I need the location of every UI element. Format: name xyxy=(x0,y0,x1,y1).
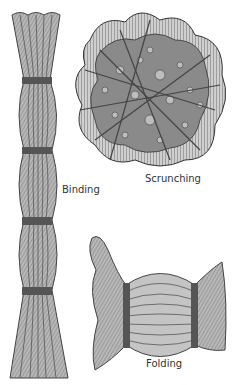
folding-label: Folding xyxy=(146,358,182,369)
binding-band xyxy=(22,147,52,154)
scrunching-label: Scrunching xyxy=(145,173,201,184)
binding-band xyxy=(22,217,52,225)
folding-bundle-illustration xyxy=(90,237,226,371)
illustration-canvas xyxy=(0,0,234,385)
binding-bundle-illustration xyxy=(10,13,68,379)
folding-band xyxy=(191,283,198,348)
scrunching-mass-illustration xyxy=(76,13,226,166)
binding-label: Binding xyxy=(62,184,100,195)
binding-band xyxy=(22,77,52,84)
folding-band xyxy=(123,283,130,348)
binding-band xyxy=(22,287,52,295)
